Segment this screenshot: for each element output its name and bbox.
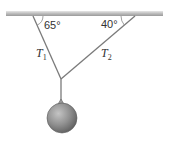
- right-angle-arc: [121, 16, 124, 25]
- tension-2-label: T2: [101, 46, 112, 62]
- hanging-ball: [47, 103, 77, 133]
- tension-1-label: T1: [36, 46, 47, 62]
- left-angle-arc: [37, 16, 43, 25]
- left-angle-label: 65°: [44, 19, 61, 31]
- right-angle-label: 40°: [101, 18, 118, 30]
- tension-diagram: 65° 40° T1 T2: [0, 0, 169, 145]
- ceiling-bar: [6, 11, 163, 16]
- right-rope: [61, 16, 135, 79]
